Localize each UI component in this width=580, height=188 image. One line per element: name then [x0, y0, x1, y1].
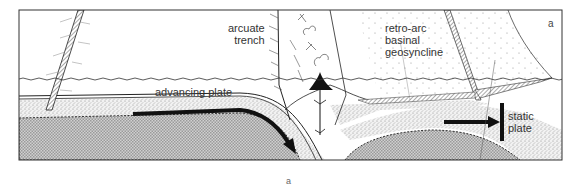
label-retro-arc-basinal-geosyncline: retro-arc basinal geosyncline [385, 22, 443, 58]
label-static-plate: static plate [508, 110, 534, 134]
label-arcuate-trench: arcuate trench [228, 22, 265, 46]
tectonic-cross-section [0, 0, 580, 188]
figure-caption: a [286, 176, 291, 186]
advancing-plate-mantle [19, 113, 300, 160]
volcano-icon [298, 14, 333, 135]
panel-letter: a [548, 18, 554, 29]
label-advancing-plate: advancing plate [155, 86, 232, 98]
